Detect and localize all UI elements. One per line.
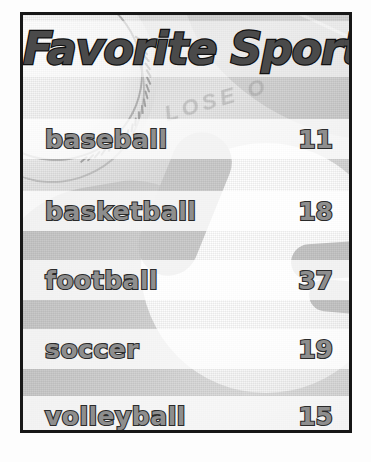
poster-content: Favorite Sport baseball 11 basketball 18…	[23, 15, 349, 430]
table-row: football 37	[23, 260, 349, 300]
table-row: volleyball 15	[23, 396, 349, 433]
row-value: 18	[298, 197, 333, 226]
poster-frame: LOSE O Favorite Sport baseball 11 basket…	[20, 12, 352, 433]
table-row: baseball 11	[23, 119, 349, 159]
row-label: football	[45, 266, 158, 295]
scan-page: LOSE O Favorite Sport baseball 11 basket…	[0, 0, 371, 462]
row-label: baseball	[45, 125, 168, 154]
row-label: soccer	[45, 335, 139, 364]
row-label: basketball	[45, 197, 196, 226]
row-value: 19	[298, 335, 333, 364]
table-row: soccer 19	[23, 329, 349, 369]
page-title: Favorite Sport	[23, 23, 349, 75]
row-value: 15	[298, 402, 333, 431]
row-value: 11	[298, 125, 333, 154]
row-value: 37	[298, 266, 333, 295]
row-label: volleyball	[45, 402, 186, 431]
table-row: basketball 18	[23, 191, 349, 231]
